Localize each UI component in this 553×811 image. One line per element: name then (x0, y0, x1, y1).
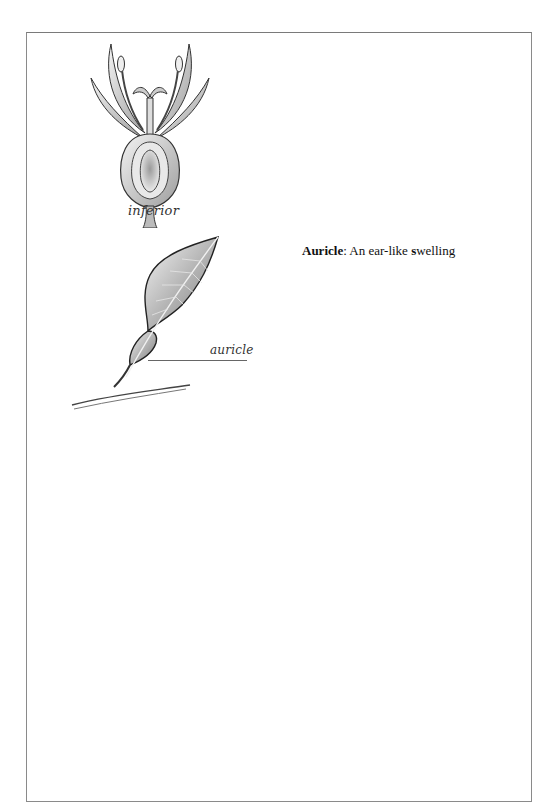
leaf-label: auricle (210, 343, 254, 357)
glossary-term: Auricle (302, 243, 343, 258)
flower-label: inferior (128, 203, 179, 218)
leaf-diagram-icon (70, 235, 270, 410)
definition-suffix: welling (416, 243, 455, 258)
flower-illustration (85, 38, 215, 228)
leaf-illustration (70, 235, 270, 410)
definition-prefix: An ear-like (347, 243, 411, 258)
flower-diagram-icon (85, 38, 215, 228)
glossary-entry: Auricle: An ear-like swelling (302, 243, 455, 259)
auricle-leader-line (148, 360, 247, 361)
